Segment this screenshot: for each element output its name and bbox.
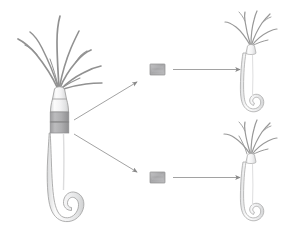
graft-piece-lower xyxy=(150,172,165,183)
parent-hydra-marked-band xyxy=(50,112,69,133)
hydra-regeneration-illustration xyxy=(0,0,285,231)
band-segment-upper xyxy=(50,112,69,122)
band-segment-lower xyxy=(50,122,69,133)
figure-root xyxy=(0,0,285,231)
regenerated-hydra-lower-hypostome xyxy=(246,154,256,164)
graft-piece-upper xyxy=(150,64,165,75)
parent-hydra-upper-column xyxy=(51,99,69,112)
regenerated-hydra-upper-hypostome xyxy=(246,45,256,55)
